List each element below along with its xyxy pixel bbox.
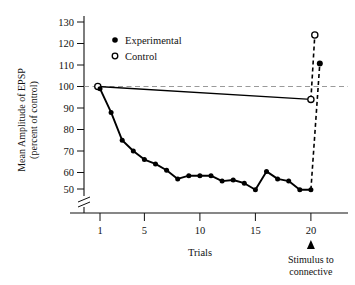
y-axis-title-line1: Mean Amplitude of EPSP	[16, 68, 27, 172]
legend-label-control: Control	[125, 51, 157, 62]
experimental-point-14	[242, 181, 247, 186]
experimental-point-8	[175, 176, 180, 181]
stimulus-annotation-line2: connective	[289, 266, 333, 277]
y-axis-title: Mean Amplitude of EPSP (percent of contr…	[16, 68, 40, 172]
experimental-point-20	[308, 187, 313, 192]
y-ticklabel-80: 80	[64, 124, 75, 135]
x-axis: 1 5 10 15 20 Trials	[70, 213, 348, 258]
series-experimental	[98, 60, 323, 192]
experimental-line	[100, 89, 311, 190]
experimental-point-19	[297, 187, 302, 192]
control-post-stimulus-dashed-line	[311, 35, 315, 99]
legend-label-experimental: Experimental	[125, 35, 182, 46]
stimulus-annotation: Stimulus to connective	[288, 240, 334, 277]
experimental-point-13	[231, 178, 236, 183]
legend-marker-experimental-icon	[112, 37, 118, 43]
experimental-point-12	[220, 179, 225, 184]
x-ticklabel-15: 15	[250, 225, 261, 236]
y-axis-title-line2: (percent of control)	[28, 81, 40, 159]
control-point-post-stimulus	[312, 32, 318, 38]
y-axis-break-upper	[78, 197, 90, 202]
experimental-point-7	[164, 168, 169, 173]
y-ticklabel-90: 90	[64, 103, 75, 114]
arrow-up-icon	[307, 240, 315, 249]
experimental-point-17	[275, 176, 280, 181]
experimental-point-4	[131, 149, 136, 154]
experimental-point-2	[109, 110, 114, 115]
y-ticklabel-120: 120	[58, 38, 74, 49]
y-ticklabel-70: 70	[64, 146, 75, 157]
experimental-point-6	[153, 161, 158, 166]
experimental-point-16	[264, 169, 269, 174]
y-ticklabel-110: 110	[59, 60, 74, 71]
legend: Experimental Control	[112, 35, 181, 62]
experimental-point-5	[142, 157, 147, 162]
experimental-point-1	[98, 86, 103, 91]
y-axis: 130 120 110 100 90 80 70 60 50	[58, 16, 90, 213]
figure-container: 130 120 110 100 90 80 70 60 50 Mean Ampl…	[0, 0, 355, 285]
experimental-point-9	[186, 173, 191, 178]
x-ticklabel-5: 5	[142, 225, 147, 236]
experimental-point-3	[120, 138, 125, 143]
experimental-point-18	[286, 179, 291, 184]
stimulus-annotation-line1: Stimulus to	[288, 254, 334, 265]
y-ticklabel-60: 60	[64, 167, 75, 178]
x-ticklabel-10: 10	[195, 225, 206, 236]
y-axis-break-lower	[78, 202, 90, 207]
x-ticklabel-20: 20	[306, 225, 317, 236]
y-ticklabel-50: 50	[64, 184, 75, 195]
experimental-point-15	[253, 187, 258, 192]
epsp-line-chart: 130 120 110 100 90 80 70 60 50 Mean Ampl…	[0, 0, 355, 285]
x-axis-title: Trials	[188, 247, 212, 258]
x-ticklabel-1: 1	[97, 225, 102, 236]
y-ticklabel-130: 130	[58, 17, 74, 28]
y-ticklabel-100: 100	[58, 81, 74, 92]
experimental-point-10	[197, 173, 202, 178]
experimental-point-11	[209, 173, 214, 178]
control-point-trial20	[308, 96, 314, 102]
legend-marker-control-icon	[112, 53, 118, 59]
control-line	[98, 87, 311, 100]
experimental-point-post-stimulus	[317, 60, 323, 66]
